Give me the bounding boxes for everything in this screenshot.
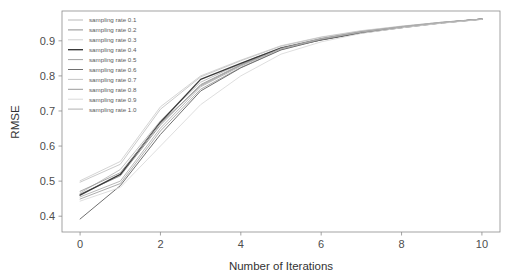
legend-label-2: sampling rate 0.2 (89, 26, 137, 33)
legend-label-8: sampling rate 0.8 (89, 86, 137, 93)
legend-label-4: sampling rate 0.4 (89, 46, 137, 53)
y-tick-label: 0.5 (40, 175, 55, 187)
legend-label-3: sampling rate 0.3 (89, 36, 137, 43)
x-tick-label: 6 (318, 238, 324, 250)
x-axis-title: Number of Iterations (229, 260, 333, 272)
y-tick-label: 0.6 (40, 140, 55, 152)
y-tick-label: 0.4 (40, 210, 55, 222)
x-tick-label: 10 (476, 238, 488, 250)
x-tick-label: 2 (157, 238, 163, 250)
y-tick-label: 0.8 (40, 70, 55, 82)
x-tick-label: 0 (77, 238, 83, 250)
legend-label-6: sampling rate 0.6 (89, 66, 137, 73)
y-axis-title: RMSE (9, 105, 21, 139)
legend-label-9: sampling rate 0.9 (89, 96, 137, 103)
chart-legend: sampling rate 0.1sampling rate 0.2sampli… (65, 13, 153, 118)
y-tick-label: 0.9 (40, 35, 55, 47)
legend-label-1: sampling rate 0.1 (89, 16, 137, 23)
x-tick-label: 8 (398, 238, 404, 250)
legend-label-7: sampling rate 0.7 (89, 76, 137, 83)
x-tick-label: 4 (238, 238, 244, 250)
y-tick-label: 0.7 (40, 105, 55, 117)
legend-label-10: sampling rate 1.0 (89, 106, 137, 113)
rmse-line-chart: 0246810 0.40.50.60.70.80.9 sampling rate… (0, 0, 523, 277)
chart-figure: 0246810 0.40.50.60.70.80.9 sampling rate… (0, 0, 523, 277)
legend-label-5: sampling rate 0.5 (89, 56, 137, 63)
